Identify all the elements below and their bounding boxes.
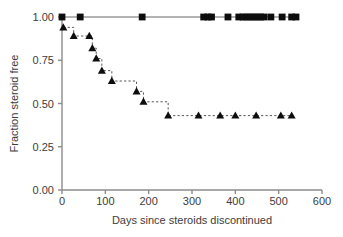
series-1 bbox=[59, 14, 300, 21]
y-tick-label: 0.25 bbox=[33, 141, 54, 153]
data-point-square bbox=[267, 14, 274, 21]
data-series-layer bbox=[59, 14, 300, 119]
x-tick-label: 500 bbox=[269, 195, 287, 207]
data-point-triangle bbox=[98, 66, 106, 73]
data-point-triangle bbox=[92, 54, 100, 61]
kaplan-meier-plot: 0100200300400500600 0.000.250.500.751.00… bbox=[0, 0, 343, 237]
data-point-triangle bbox=[164, 111, 172, 118]
data-point-triangle bbox=[88, 44, 96, 51]
data-point-triangle bbox=[108, 77, 116, 84]
data-point-square bbox=[225, 14, 232, 21]
x-tick-label: 200 bbox=[139, 195, 157, 207]
data-point-square bbox=[59, 14, 66, 21]
x-tick-label: 600 bbox=[313, 195, 331, 207]
y-tick-label: 1.00 bbox=[33, 11, 54, 23]
y-axis-tick-labels: 0.000.250.500.751.00 bbox=[33, 11, 54, 196]
data-point-triangle bbox=[231, 111, 239, 118]
data-point-square bbox=[279, 14, 286, 21]
x-axis-tick-labels: 0100200300400500600 bbox=[59, 195, 331, 207]
data-point-triangle bbox=[277, 111, 285, 118]
data-point-square bbox=[208, 14, 215, 21]
series-2 bbox=[59, 23, 295, 118]
data-point-triangle bbox=[133, 87, 141, 94]
data-point-square bbox=[261, 14, 268, 21]
y-tick-label: 0.50 bbox=[33, 98, 54, 110]
x-tick-label: 100 bbox=[96, 195, 114, 207]
data-point-triangle bbox=[85, 32, 93, 39]
data-point-square bbox=[77, 14, 84, 21]
data-point-triangle bbox=[59, 23, 67, 30]
x-axis-title: Days since steroids discontinued bbox=[112, 214, 272, 226]
x-tick-label: 400 bbox=[226, 195, 244, 207]
data-point-triangle bbox=[139, 98, 147, 105]
data-point-triangle bbox=[70, 32, 78, 39]
data-point-triangle bbox=[195, 111, 203, 118]
data-point-triangle bbox=[216, 111, 224, 118]
x-tick-label: 0 bbox=[59, 195, 65, 207]
y-tick-label: 0.00 bbox=[33, 184, 54, 196]
y-axis-title: Fraction steroid free bbox=[8, 55, 20, 153]
y-tick-label: 0.75 bbox=[33, 54, 54, 66]
series-step-line bbox=[63, 27, 291, 115]
data-point-triangle bbox=[288, 111, 296, 118]
axis-group: 0100200300400500600 0.000.250.500.751.00 bbox=[33, 11, 332, 207]
x-tick-label: 300 bbox=[183, 195, 201, 207]
data-point-square bbox=[293, 14, 300, 21]
data-point-triangle bbox=[252, 111, 260, 118]
data-point-square bbox=[139, 14, 146, 21]
chart-figure: 0100200300400500600 0.000.250.500.751.00… bbox=[0, 0, 343, 237]
